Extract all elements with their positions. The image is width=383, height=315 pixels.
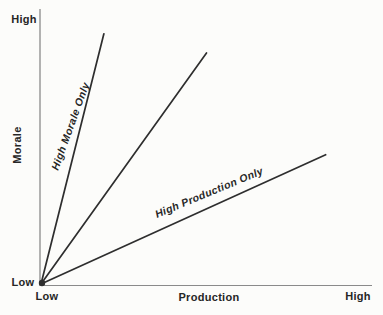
y-axis-tick-high-label: High bbox=[11, 13, 37, 25]
origin-point bbox=[39, 280, 45, 286]
x-axis-tick-low-label: Low bbox=[36, 290, 59, 302]
data-lines bbox=[39, 34, 326, 286]
y-axis-title: Morale bbox=[11, 126, 23, 163]
x-axis-tick-high-label: High bbox=[345, 290, 371, 302]
series-line-1 bbox=[41, 53, 207, 284]
x-axis-title: Production bbox=[178, 291, 239, 303]
chart-figure: High Morale Low Low Production High High… bbox=[0, 0, 383, 315]
y-axis-tick-low-label: Low bbox=[12, 276, 35, 288]
series-line-2 bbox=[41, 155, 326, 284]
